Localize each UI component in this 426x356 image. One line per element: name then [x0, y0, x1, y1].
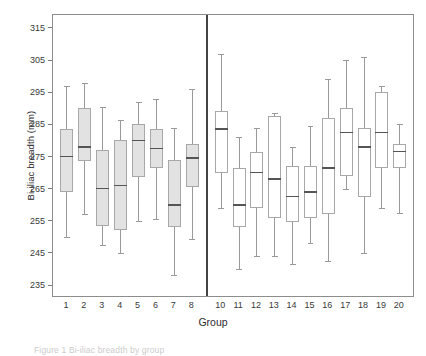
box-plot-box[interactable]: [168, 15, 181, 298]
whisker-cap-lower: [136, 221, 142, 222]
box-plot-box[interactable]: [358, 15, 371, 298]
box-plot-box[interactable]: [393, 15, 406, 298]
whisker-cap-upper: [189, 89, 195, 90]
x-axis-tick-label: 17: [340, 300, 350, 310]
whisker-cap-lower: [379, 208, 385, 209]
box-plot-box[interactable]: [286, 15, 299, 298]
whisker-upper: [120, 120, 121, 141]
box-plot-box[interactable]: [78, 15, 91, 298]
box-plot-box[interactable]: [132, 15, 145, 298]
whisker-cap-lower: [308, 243, 314, 244]
whisker-cap-lower: [153, 219, 159, 220]
whisker-lower: [120, 230, 121, 253]
whisker-cap-lower: [272, 256, 278, 257]
x-axis-tick-label: 6: [153, 300, 158, 310]
box-plot-box[interactable]: [150, 15, 163, 298]
whisker-upper: [174, 128, 175, 160]
y-axis-tick: 295: [30, 87, 52, 97]
whisker-lower: [292, 222, 293, 264]
box-iqr: [215, 111, 228, 172]
x-axis-tick-label: 18: [358, 300, 368, 310]
y-axis-tick-mark: [48, 27, 52, 28]
y-axis-tick-label: 285: [30, 119, 45, 129]
y-axis-tick-label: 295: [30, 87, 45, 97]
box-plot-box[interactable]: [96, 15, 109, 298]
median-line: [322, 167, 335, 169]
whisker-cap-upper: [379, 86, 385, 87]
whisker-upper: [399, 124, 400, 143]
median-line: [114, 185, 127, 187]
figure-caption: Figure 1 Bi-iliac breadth by group: [34, 344, 406, 356]
x-axis-tick-label: 2: [81, 300, 86, 310]
whisker-cap-lower: [118, 253, 124, 254]
y-axis-tick-mark: [48, 285, 52, 286]
whisker-cap-upper: [136, 102, 142, 103]
whisker-cap-upper: [397, 124, 403, 125]
box-plot-box[interactable]: [250, 15, 263, 298]
whisker-cap-lower: [290, 264, 296, 265]
median-line: [150, 148, 163, 150]
whisker-upper: [239, 137, 240, 168]
whisker-cap-lower: [82, 214, 88, 215]
whisker-cap-upper: [343, 60, 349, 61]
box-iqr: [132, 124, 145, 177]
whisker-lower: [66, 192, 67, 237]
whisker-cap-lower: [218, 208, 224, 209]
box-iqr: [168, 160, 181, 228]
whisker-upper: [66, 86, 67, 129]
whisker-cap-lower: [64, 237, 70, 238]
y-axis-tick-mark: [48, 252, 52, 253]
y-axis-tick-mark: [48, 124, 52, 125]
whisker-upper: [310, 126, 311, 166]
whisker-cap-lower: [325, 261, 331, 262]
box-plot-box[interactable]: [233, 15, 246, 298]
whisker-cap-upper: [236, 137, 242, 138]
y-axis-tick-label: 255: [30, 216, 45, 226]
x-axis-tick-label: 19: [376, 300, 386, 310]
box-plot-box[interactable]: [60, 15, 73, 298]
y-axis-tick-mark: [48, 220, 52, 221]
median-line: [358, 146, 371, 148]
panel-divider: [206, 15, 208, 296]
whisker-upper: [138, 102, 139, 125]
box-plot-box[interactable]: [186, 15, 199, 298]
box-plot-box[interactable]: [340, 15, 353, 298]
box-plot-box[interactable]: [268, 15, 281, 298]
box-plot-box[interactable]: [375, 15, 388, 298]
box-plot-box[interactable]: [322, 15, 335, 298]
whisker-cap-lower: [254, 256, 260, 257]
box-plot-box[interactable]: [304, 15, 317, 298]
y-axis-tick-label: 305: [30, 55, 45, 65]
whisker-lower: [399, 168, 400, 213]
median-line: [168, 204, 181, 206]
whisker-cap-upper: [325, 79, 331, 80]
median-line: [233, 204, 246, 206]
x-axis-tick-label: 8: [189, 300, 194, 310]
box-iqr: [375, 92, 388, 168]
whisker-cap-lower: [343, 189, 349, 190]
box-plot-box[interactable]: [215, 15, 228, 298]
whisker-lower: [346, 176, 347, 189]
whisker-cap-upper: [153, 99, 159, 100]
whisker-lower: [381, 168, 382, 208]
x-axis-tick-label: 1: [63, 300, 68, 310]
box-plot-box[interactable]: [114, 15, 127, 298]
box-iqr: [358, 128, 371, 197]
whisker-upper: [364, 57, 365, 128]
whisker-lower: [102, 226, 103, 245]
median-line: [96, 188, 109, 190]
y-axis-tick-mark: [48, 92, 52, 93]
x-axis-tick-label: 10: [215, 300, 225, 310]
x-axis-tick-label: 20: [394, 300, 404, 310]
whisker-upper: [156, 99, 157, 130]
whisker-lower: [174, 227, 175, 275]
median-line: [186, 157, 199, 159]
whisker-cap-upper: [254, 128, 260, 129]
boxplot-figure: Bi-iliac breadth (mm) 235245255265275285…: [0, 0, 426, 356]
whisker-cap-lower: [236, 269, 242, 270]
whisker-cap-upper: [100, 107, 106, 108]
y-axis-tick: 305: [30, 55, 52, 65]
median-line: [286, 196, 299, 198]
whisker-lower: [221, 173, 222, 208]
median-line: [304, 191, 317, 193]
